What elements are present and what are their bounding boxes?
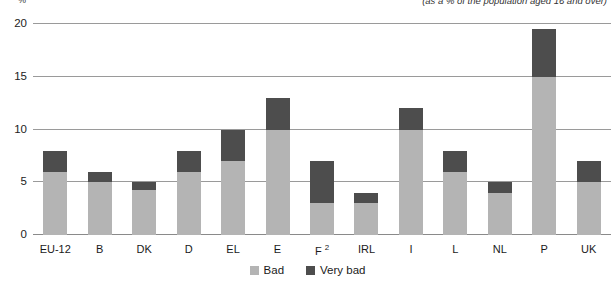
y-tick-label-10: 10 bbox=[14, 123, 27, 135]
x-tick-text: IRL bbox=[358, 243, 375, 255]
bar-segment-bad bbox=[132, 190, 156, 235]
bar-nl[interactable] bbox=[488, 182, 512, 235]
x-tick-text: DK bbox=[137, 243, 152, 255]
legend-item-bad[interactable]: Bad bbox=[250, 264, 284, 276]
bar-segment-very-bad bbox=[132, 182, 156, 189]
bars-group bbox=[33, 24, 611, 235]
x-tick-label-p: P bbox=[522, 235, 566, 255]
bar-segment-very-bad bbox=[266, 98, 290, 130]
bar-uk[interactable] bbox=[577, 161, 601, 235]
x-tick-label-uk: UK bbox=[567, 235, 611, 255]
bar-segment-very-bad bbox=[88, 172, 112, 183]
x-tick-label-b: B bbox=[77, 235, 121, 255]
bar-segment-bad bbox=[443, 172, 467, 235]
x-tick-footnote-marker: 2 bbox=[325, 243, 329, 252]
bar-segment-bad bbox=[266, 130, 290, 236]
bar-i[interactable] bbox=[399, 108, 423, 235]
x-tick-label-el: EL bbox=[211, 235, 255, 255]
y-tick-label-20: 20 bbox=[14, 17, 27, 29]
bar-eu-12[interactable] bbox=[43, 151, 67, 235]
legend-label-very-bad: Very bad bbox=[320, 264, 365, 276]
bar-p[interactable] bbox=[532, 29, 556, 235]
bar-d[interactable] bbox=[177, 151, 201, 235]
x-tick-text: I bbox=[409, 243, 412, 255]
legend-item-very-bad[interactable]: Very bad bbox=[306, 264, 365, 276]
bar-segment-very-bad bbox=[443, 151, 467, 172]
x-tick-text: EL bbox=[226, 243, 239, 255]
x-tick-label-d: D bbox=[166, 235, 210, 255]
bar-dk[interactable] bbox=[132, 182, 156, 235]
x-tick-label-e: E bbox=[255, 235, 299, 255]
bar-segment-very-bad bbox=[532, 29, 556, 76]
bar-segment-bad bbox=[310, 203, 334, 235]
bar-segment-bad bbox=[43, 172, 67, 235]
bar-b[interactable] bbox=[88, 172, 112, 235]
x-tick-label-dk: DK bbox=[122, 235, 166, 255]
x-tick-label-i: I bbox=[389, 235, 433, 255]
chart-container: % (as a % of the population aged 16 and … bbox=[0, 0, 615, 282]
bar-segment-very-bad bbox=[43, 151, 67, 172]
y-tick-label-5: 5 bbox=[21, 175, 27, 187]
bar-segment-very-bad bbox=[177, 151, 201, 172]
bar-segment-bad bbox=[577, 182, 601, 235]
chart-legend: Bad Very bad bbox=[0, 264, 615, 276]
bar-segment-bad bbox=[532, 77, 556, 235]
bar-segment-bad bbox=[221, 161, 245, 235]
bar-segment-very-bad bbox=[354, 193, 378, 204]
x-tick-text: B bbox=[96, 243, 103, 255]
x-tick-text: UK bbox=[581, 243, 596, 255]
x-tick-text: F bbox=[315, 245, 322, 257]
bar-segment-bad bbox=[354, 203, 378, 235]
bar-segment-bad bbox=[399, 130, 423, 236]
x-tick-label-f: F2 bbox=[300, 235, 344, 257]
bar-segment-very-bad bbox=[399, 108, 423, 129]
x-tick-label-nl: NL bbox=[478, 235, 522, 255]
bar-segment-bad bbox=[177, 172, 201, 235]
x-tick-text: NL bbox=[493, 243, 507, 255]
x-tick-label-l: L bbox=[433, 235, 477, 255]
x-tick-text: EU-12 bbox=[40, 243, 71, 255]
bar-e[interactable] bbox=[266, 98, 290, 235]
legend-swatch-very-bad bbox=[306, 266, 315, 275]
x-tick-text: D bbox=[185, 243, 193, 255]
y-axis-unit-label: % bbox=[18, 0, 26, 5]
legend-swatch-bad bbox=[250, 266, 259, 275]
plot-area: 05101520 EU-12BDKDELEF2IRLILNLPUK bbox=[33, 24, 611, 235]
x-tick-label-irl: IRL bbox=[344, 235, 388, 255]
y-tick-label-15: 15 bbox=[14, 70, 27, 82]
bar-segment-very-bad bbox=[577, 161, 601, 182]
chart-subtitle: (as a % of the population aged 16 and ov… bbox=[422, 0, 607, 6]
y-tick-label-0: 0 bbox=[21, 228, 27, 240]
bar-l[interactable] bbox=[443, 151, 467, 235]
bar-segment-bad bbox=[488, 193, 512, 235]
bar-f[interactable] bbox=[310, 161, 334, 235]
bar-el[interactable] bbox=[221, 130, 245, 236]
bar-segment-very-bad bbox=[221, 130, 245, 162]
bar-segment-very-bad bbox=[310, 161, 334, 203]
legend-label-bad: Bad bbox=[264, 264, 284, 276]
x-tick-text: P bbox=[541, 243, 548, 255]
bar-segment-very-bad bbox=[488, 182, 512, 193]
x-tick-label-eu-12: EU-12 bbox=[33, 235, 77, 255]
bar-segment-bad bbox=[88, 182, 112, 235]
bar-irl[interactable] bbox=[354, 193, 378, 235]
x-tick-text: L bbox=[452, 243, 458, 255]
x-tick-text: E bbox=[274, 243, 281, 255]
